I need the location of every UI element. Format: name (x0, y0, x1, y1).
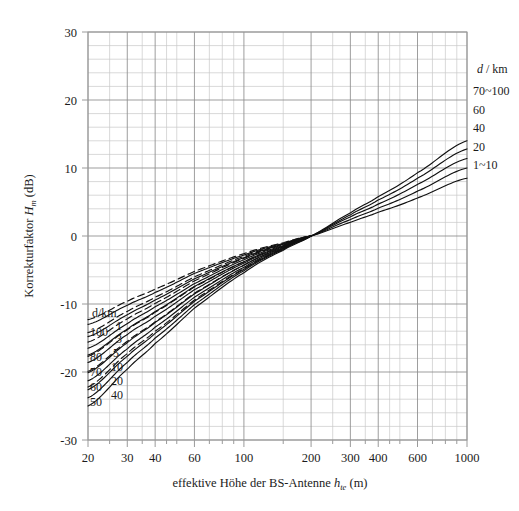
legend-left-header: d/km (92, 306, 117, 320)
x-tick-label: 20 (82, 451, 95, 465)
x-tick-label: 60 (188, 451, 201, 465)
legend-right-header: d / km (477, 62, 508, 76)
legend-right-item: 20 (473, 140, 485, 154)
legend-left-outer-item: 70 (90, 365, 102, 379)
legend-left-outer-item: 60 (90, 380, 102, 394)
legend-left-outer-item: 100 (90, 325, 108, 339)
y-tick-label: -20 (60, 366, 77, 380)
y-tick-label: 0 (71, 230, 77, 244)
x-tick-label: 100 (235, 451, 254, 465)
legend-left-inner-item: 1 (116, 319, 122, 333)
x-tick-label: 30 (121, 451, 134, 465)
x-axis-title: effektive Höhe der BS-Antenne hte (m) (172, 476, 367, 492)
legend-right-item: 1~10 (473, 158, 498, 172)
chart-figure: 203040601002003004006001000 3020100-10-2… (0, 0, 519, 511)
y-tick-label: -30 (60, 434, 77, 448)
x-tick-label: 1000 (455, 451, 480, 465)
x-tick-label: 200 (302, 451, 321, 465)
legend-left-outer-item: 50 (90, 395, 102, 409)
legend-left-outer-item: 80 (90, 350, 102, 364)
correction-factor-chart: 203040601002003004006001000 3020100-10-2… (0, 0, 519, 511)
legend-left-inner-item: 3 (116, 332, 122, 346)
legend-right-item: 60 (473, 103, 485, 117)
legend-right-item: 40 (473, 121, 485, 135)
x-tick-label: 400 (369, 451, 388, 465)
x-tick-label: 600 (408, 451, 427, 465)
x-tick-label: 40 (149, 451, 162, 465)
legend-left-inner-item: 5 (113, 346, 119, 360)
y-tick-label: 20 (65, 94, 78, 108)
y-axis-title: Korrekturfaktor Hm (dB) (22, 174, 38, 297)
legend-left-inner-item: 10 (111, 360, 123, 374)
legend-left-inner-item: 40 (111, 388, 123, 402)
legend-right-item: 70~100 (473, 84, 510, 98)
legend-left-inner-item: 20 (111, 374, 123, 388)
y-tick-label: -10 (60, 298, 77, 312)
y-tick-label: 30 (65, 26, 78, 40)
y-tick-label: 10 (65, 162, 78, 176)
x-tick-label: 300 (341, 451, 360, 465)
